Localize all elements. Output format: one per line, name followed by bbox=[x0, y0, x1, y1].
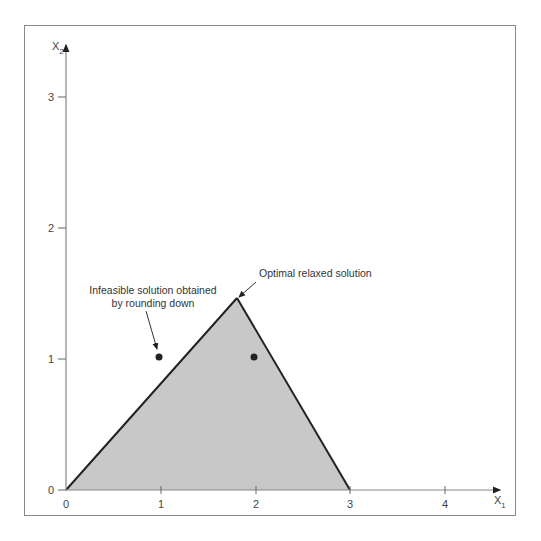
y-tick-2: 2 bbox=[48, 222, 54, 234]
annotation-infeasible-1: Infeasible solution obtained bbox=[89, 284, 216, 296]
x-tick-0: 0 bbox=[63, 498, 69, 510]
feasible-region bbox=[66, 298, 350, 490]
x-tick-3: 3 bbox=[347, 498, 353, 510]
point-2-1 bbox=[251, 354, 258, 361]
chart-plot: 0 1 2 3 4 0 1 2 3 X1 X2 Optimal relaxed … bbox=[0, 0, 541, 541]
point-infeasible bbox=[156, 354, 163, 361]
annotation-optimal: Optimal relaxed solution bbox=[259, 267, 372, 279]
y-axis-label: X2 bbox=[52, 40, 64, 56]
y-ticks bbox=[58, 97, 66, 490]
x-axis-label: X1 bbox=[494, 494, 506, 510]
x-tick-1: 1 bbox=[158, 498, 164, 510]
x-tick-2: 2 bbox=[253, 498, 259, 510]
y-tick-0: 0 bbox=[48, 484, 54, 496]
x-tick-4: 4 bbox=[442, 498, 448, 510]
y-tick-1: 1 bbox=[48, 353, 54, 365]
y-tick-3: 3 bbox=[48, 91, 54, 103]
annotation-infeasible-2: by rounding down bbox=[112, 297, 195, 309]
